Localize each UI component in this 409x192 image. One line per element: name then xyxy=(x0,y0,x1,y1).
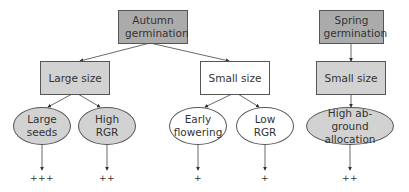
small-size-autumn-label: Small size xyxy=(209,72,262,85)
score-high-rgr: ++ xyxy=(92,173,122,183)
score-low-rgr: + xyxy=(250,173,280,183)
small-size-autumn-box: Small size xyxy=(200,61,270,95)
small-size-spring-label: Small size xyxy=(325,72,378,85)
high-rgr-label: High RGR xyxy=(92,113,122,139)
autumn-germination-label: Autumn germination xyxy=(125,14,181,40)
large-seeds-ellipse: Large seeds xyxy=(13,107,71,145)
autumn-germination-box: Autumn germination xyxy=(118,10,188,44)
small-size-spring-box: Small size xyxy=(316,61,386,95)
score-large-seeds: +++ xyxy=(27,173,57,183)
large-size-label: Large size xyxy=(48,72,101,85)
early-flowering-label: Early flowering xyxy=(172,113,224,139)
score-high-ab-ground: ++ xyxy=(335,173,365,183)
high-ab-ground-allocation-ellipse: High ab-ground allocation xyxy=(306,107,394,145)
high-rgr-ellipse: High RGR xyxy=(78,107,136,145)
low-rgr-label: Low RGR xyxy=(250,113,280,139)
high-ab-ground-allocation-label: High ab-ground allocation xyxy=(311,107,389,146)
large-seeds-label: Large seeds xyxy=(24,113,60,139)
spring-germination-label: Spring germination xyxy=(324,14,380,40)
low-rgr-ellipse: Low RGR xyxy=(236,107,294,145)
spring-germination-box: Spring germination xyxy=(319,10,384,44)
large-size-box: Large size xyxy=(40,61,110,95)
early-flowering-ellipse: Early flowering xyxy=(169,107,227,145)
score-early-flowering: + xyxy=(183,173,213,183)
